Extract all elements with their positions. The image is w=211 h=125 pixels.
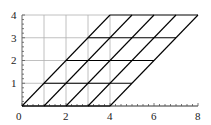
x-tick-label: 0 bbox=[16, 110, 22, 122]
shear-grid-chart: 0 2 4 6 8 1 2 3 4 bbox=[0, 0, 211, 125]
x-tick-label: 8 bbox=[195, 110, 201, 122]
y-tick-label: 1 bbox=[11, 77, 17, 89]
x-tick-label: 4 bbox=[107, 110, 113, 122]
y-tick-label: 3 bbox=[11, 32, 17, 44]
tick-labels: 0 2 4 6 8 1 2 3 4 bbox=[11, 9, 201, 122]
y-tick-label: 2 bbox=[11, 54, 17, 66]
x-tick-label: 6 bbox=[151, 110, 157, 122]
x-tick-label: 2 bbox=[63, 110, 69, 122]
y-tick-label: 4 bbox=[11, 9, 17, 21]
